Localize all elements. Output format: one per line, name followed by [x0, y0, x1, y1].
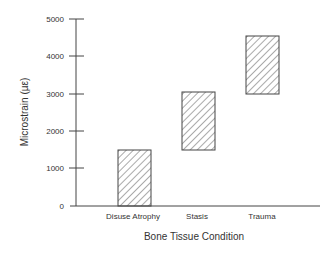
y-tick-label-1000: 1000 [46, 164, 64, 173]
bar-disuse-atrophy [118, 150, 151, 206]
y-tick-label-2000: 2000 [46, 127, 64, 136]
category-label-stasis: Stasis [186, 212, 208, 221]
y-tick-label-4000: 4000 [46, 52, 64, 61]
bar-trauma [246, 36, 279, 94]
y-axis-title: Microstrain (µε) [19, 78, 30, 147]
category-label-disuse-atrophy: Disuse Atrophy [106, 212, 160, 221]
category-label-trauma: Trauma [248, 212, 276, 221]
x-axis-title: Bone Tissue Condition [144, 231, 244, 242]
y-tick-label-0: 0 [60, 202, 65, 211]
bar-stasis [182, 92, 215, 150]
y-tick-label-5000: 5000 [46, 15, 64, 24]
chart: 5000 4000 3000 2000 1000 0 Microstrain (… [0, 0, 334, 253]
y-tick-label-3000: 3000 [46, 90, 64, 99]
